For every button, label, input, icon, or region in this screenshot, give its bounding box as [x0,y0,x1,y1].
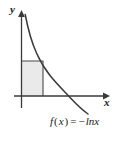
caption-minus-sign: − [77,115,85,127]
y-axis-arrowhead-icon [18,10,25,17]
x-axis-label: x [104,97,110,108]
caption-variable: x [59,115,64,127]
inscribed-rectangle-fill [22,61,44,96]
caption-ln: ln [86,115,95,127]
caption-argument: x [94,115,99,127]
function-caption: f(x)=−lnx [0,115,115,127]
figure-container: y x f(x)=−lnx [0,0,115,144]
y-axis-label: y [10,4,15,15]
